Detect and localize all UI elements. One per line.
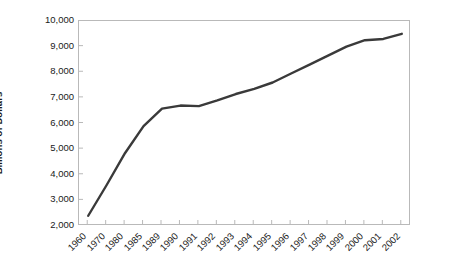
line-chart: Billions of Dollars 10,0009,0008,0007,00… <box>0 0 452 266</box>
x-axis-tick-labels: 1960197019801985198919901991199219931994… <box>0 0 452 266</box>
